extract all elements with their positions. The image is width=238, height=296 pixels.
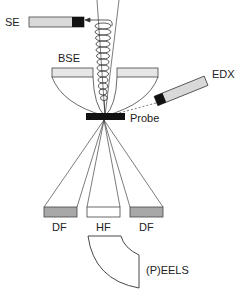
spiral-coil (95, 23, 111, 114)
hf-label: HF (96, 221, 111, 233)
se-label: SE (5, 16, 20, 28)
eels-label: (P)EELS (146, 264, 189, 276)
eels-spectrometer (88, 236, 139, 288)
stem-detector-diagram: SE BSE EDX (0, 0, 238, 296)
se-detector (29, 17, 84, 27)
probe-label: Probe (130, 112, 159, 124)
probe-specimen (86, 113, 125, 120)
bse-label: BSE (58, 52, 80, 64)
df-right-detector (130, 207, 163, 217)
df-left-detector (44, 207, 77, 217)
transmitted-beam (44, 120, 163, 207)
hf-detector (87, 207, 120, 217)
edx-label: EDX (212, 68, 235, 80)
df-left-label: DF (52, 221, 67, 233)
df-right-label: DF (139, 221, 154, 233)
